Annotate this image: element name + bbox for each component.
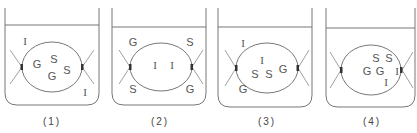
molecule-i-outside: I	[23, 36, 27, 47]
molecule-g-inside: G	[48, 71, 57, 82]
molecule-i-inside: I	[395, 66, 399, 77]
caption-1: (1)	[43, 116, 61, 127]
caption-2: (2)	[151, 116, 169, 127]
molecule-g-inside: G	[33, 59, 42, 70]
molecule-i-inside: I	[384, 77, 388, 88]
molecule-g-outside: G	[239, 84, 248, 95]
molecule-s-inside: S	[265, 69, 272, 80]
beaker-3	[217, 0, 317, 133]
molecule-s-inside: S	[385, 53, 392, 64]
molecule-s-inside: S	[251, 69, 258, 80]
molecule-g-outside: G	[129, 37, 138, 48]
caption-3: (3)	[258, 116, 276, 127]
molecule-s-inside: S	[372, 53, 379, 64]
molecule-s-inside: S	[50, 54, 57, 65]
beaker-2	[111, 0, 211, 133]
molecule-g-outside: G	[186, 84, 195, 95]
molecule-g-inside: G	[363, 66, 372, 77]
molecule-i-outside: I	[83, 87, 87, 98]
beaker-1	[4, 0, 104, 133]
molecule-g-inside: G	[376, 66, 385, 77]
molecule-i-inside: I	[153, 60, 157, 71]
molecule-i-outside: I	[241, 38, 245, 49]
molecule-i-inside: I	[170, 60, 174, 71]
molecule-s-outside: S	[129, 84, 136, 95]
molecule-g-inside: G	[279, 64, 288, 75]
molecule-s-outside: S	[186, 37, 193, 48]
beaker-3-drawing	[217, 0, 317, 133]
beaker-2-drawing	[111, 0, 211, 133]
molecule-s-inside: S	[63, 65, 70, 76]
caption-4: (4)	[363, 116, 381, 127]
beaker-1-drawing	[4, 0, 104, 133]
molecule-i-inside: I	[260, 55, 264, 66]
